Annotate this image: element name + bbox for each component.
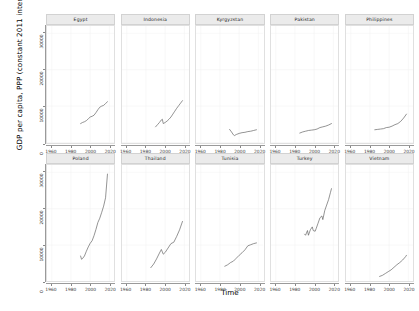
x-axis-line bbox=[345, 283, 414, 284]
facet-line-chart: GDP per capita, PPP (constant 2011 inter… bbox=[0, 0, 419, 311]
x-tick-mark bbox=[110, 284, 111, 286]
x-tick-mark bbox=[51, 284, 52, 286]
x-axis-line bbox=[121, 145, 190, 146]
facet-pakistan: Pakistan bbox=[270, 14, 339, 144]
facet-strip-indonesia: Indonesia bbox=[121, 14, 190, 25]
x-tick-mark bbox=[240, 146, 241, 148]
facet-strip-label: Indonesia bbox=[143, 17, 167, 22]
x-tick-mark bbox=[389, 146, 390, 148]
x-tick-label: 2020 bbox=[400, 287, 418, 292]
x-tick-mark bbox=[260, 284, 261, 286]
x-tick-mark bbox=[350, 284, 351, 286]
x-tick-mark bbox=[220, 146, 221, 148]
x-axis-line bbox=[121, 283, 190, 284]
facet-indonesia: Indonesia bbox=[121, 14, 190, 144]
x-tick-mark bbox=[409, 284, 410, 286]
y-tick-label: 20000 bbox=[39, 207, 44, 227]
facet-thailand: Thailand bbox=[121, 153, 190, 283]
y-axis-title: GDP per capita, PPP (constant 2011 inter… bbox=[15, 0, 24, 170]
y-tick-label: 10000 bbox=[39, 106, 44, 126]
x-axis-line bbox=[46, 145, 115, 146]
facet-strip-label: Philippines bbox=[366, 17, 392, 22]
facet-vietnam: Vietnam bbox=[345, 153, 414, 283]
x-tick-mark bbox=[315, 146, 316, 148]
x-tick-label: 2000 bbox=[306, 287, 324, 292]
panel-kyrgyzstan bbox=[195, 25, 264, 144]
facet-tunisia: Tunisia bbox=[195, 153, 264, 283]
x-tick-label: 2000 bbox=[231, 287, 249, 292]
x-tick-mark bbox=[185, 284, 186, 286]
x-tick-label: 1960 bbox=[191, 287, 209, 292]
facet-strip-label: Pakistan bbox=[294, 17, 314, 22]
x-tick-mark bbox=[165, 284, 166, 286]
x-tick-mark bbox=[185, 146, 186, 148]
x-tick-mark bbox=[295, 146, 296, 148]
x-tick-mark bbox=[240, 284, 241, 286]
facet-strip-egypt: Egypt bbox=[46, 14, 115, 25]
x-tick-label: 2000 bbox=[380, 287, 398, 292]
y-tick-label: 30000 bbox=[39, 170, 44, 190]
facet-strip-label: Kyrgyzstan bbox=[217, 17, 244, 22]
x-tick-mark bbox=[350, 146, 351, 148]
panel-thailand bbox=[121, 164, 190, 283]
x-tick-mark bbox=[370, 146, 371, 148]
x-tick-mark bbox=[71, 284, 72, 286]
x-tick-label: 1980 bbox=[361, 287, 379, 292]
panel-turkey bbox=[270, 164, 339, 283]
facet-poland: Poland bbox=[46, 153, 115, 283]
panel-pakistan bbox=[270, 25, 339, 144]
facet-strip-tunisia: Tunisia bbox=[195, 153, 264, 164]
facet-turkey: Turkey bbox=[270, 153, 339, 283]
x-tick-mark bbox=[275, 284, 276, 286]
x-axis-line bbox=[270, 145, 339, 146]
panel-egypt bbox=[46, 25, 115, 144]
x-tick-mark bbox=[334, 146, 335, 148]
x-tick-mark bbox=[409, 146, 410, 148]
facet-philippines: Philippines bbox=[345, 14, 414, 144]
x-tick-label: 1980 bbox=[211, 287, 229, 292]
x-tick-mark bbox=[90, 146, 91, 148]
x-tick-mark bbox=[145, 146, 146, 148]
x-tick-label: 1980 bbox=[62, 287, 80, 292]
panel-poland bbox=[46, 164, 115, 283]
x-tick-mark bbox=[389, 284, 390, 286]
x-tick-mark bbox=[145, 284, 146, 286]
x-tick-label: 2000 bbox=[81, 287, 99, 292]
x-tick-mark bbox=[260, 146, 261, 148]
x-tick-mark bbox=[370, 284, 371, 286]
y-tick-label: 30000 bbox=[39, 32, 44, 52]
x-tick-mark bbox=[126, 284, 127, 286]
x-axis-line bbox=[270, 283, 339, 284]
x-tick-label: 2000 bbox=[156, 287, 174, 292]
x-tick-mark bbox=[220, 284, 221, 286]
x-tick-label: 1980 bbox=[286, 287, 304, 292]
facet-strip-label: Tunisia bbox=[222, 156, 239, 161]
panel-tunisia bbox=[195, 164, 264, 283]
x-tick-mark bbox=[200, 146, 201, 148]
x-tick-mark bbox=[51, 146, 52, 148]
facet-strip-label: Egypt bbox=[74, 17, 88, 22]
panel-philippines bbox=[345, 25, 414, 144]
x-tick-mark bbox=[315, 284, 316, 286]
x-tick-mark bbox=[71, 146, 72, 148]
y-tick-label: 10000 bbox=[39, 244, 44, 264]
panel-indonesia bbox=[121, 25, 190, 144]
x-tick-label: 1960 bbox=[266, 287, 284, 292]
panel-vietnam bbox=[345, 164, 414, 283]
facet-strip-label: Vietnam bbox=[369, 156, 389, 161]
facet-strip-thailand: Thailand bbox=[121, 153, 190, 164]
facet-strip-label: Turkey bbox=[297, 156, 313, 161]
facet-strip-poland: Poland bbox=[46, 153, 115, 164]
facet-strip-label: Poland bbox=[72, 156, 88, 161]
x-axis-line bbox=[195, 283, 264, 284]
x-axis-line bbox=[46, 283, 115, 284]
x-tick-mark bbox=[334, 284, 335, 286]
facet-strip-philippines: Philippines bbox=[345, 14, 414, 25]
x-tick-label: 1960 bbox=[117, 287, 135, 292]
facet-strip-label: Thailand bbox=[145, 156, 166, 161]
x-axis-line bbox=[195, 145, 264, 146]
x-tick-mark bbox=[200, 284, 201, 286]
x-tick-label: 1960 bbox=[42, 287, 60, 292]
facet-strip-pakistan: Pakistan bbox=[270, 14, 339, 25]
facet-strip-vietnam: Vietnam bbox=[345, 153, 414, 164]
